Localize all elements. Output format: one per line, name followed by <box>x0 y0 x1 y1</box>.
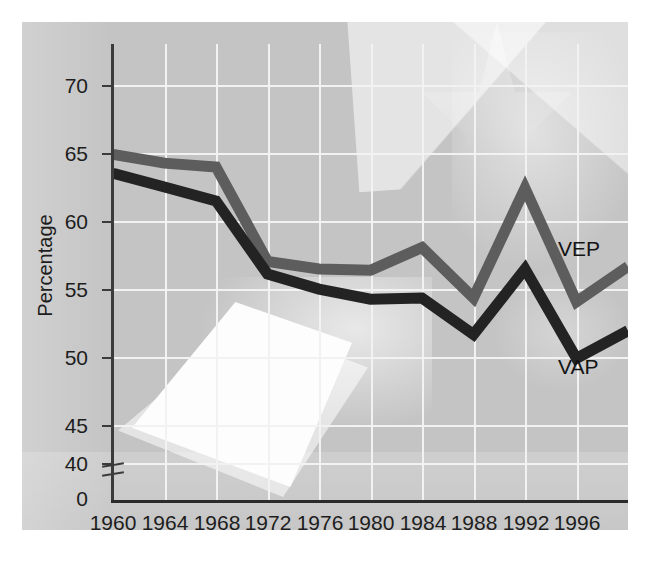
y-tick-60 <box>102 221 113 223</box>
chart-panel: 70 65 60 55 50 45 40 0 1960 1964 1968 19… <box>22 22 628 530</box>
series-label-vep: VEP <box>558 237 600 261</box>
y-tick-label-40: 40 <box>28 453 88 474</box>
y-tick-label-0: 0 <box>28 488 88 509</box>
x-tick-label-1980: 1980 <box>341 511 401 530</box>
y-axis-line <box>111 44 114 502</box>
chart-figure: 70 65 60 55 50 45 40 0 1960 1964 1968 19… <box>0 0 650 573</box>
y-tick-70 <box>102 85 113 87</box>
x-axis-line <box>111 500 628 503</box>
x-tick-label-1960: 1960 <box>83 511 143 530</box>
y-axis-break-icon <box>102 462 124 478</box>
y-tick-label-45: 45 <box>28 415 88 436</box>
x-tick-label-1996: 1996 <box>547 511 607 530</box>
x-tick-label-1972: 1972 <box>238 511 298 530</box>
y-tick-label-65: 65 <box>28 143 88 164</box>
y-tick-50 <box>102 357 113 359</box>
y-tick-65 <box>102 153 113 155</box>
series-label-vap: VAP <box>558 355 598 379</box>
y-axis-title: Percentage <box>34 181 57 351</box>
y-tick-label-70: 70 <box>28 75 88 96</box>
plot-area: 70 65 60 55 50 45 40 0 1960 1964 1968 19… <box>22 22 628 530</box>
line-vep <box>113 154 628 301</box>
y-tick-45 <box>102 425 113 427</box>
x-tick-label-1964: 1964 <box>135 511 195 530</box>
y-tick-55 <box>102 289 113 291</box>
x-tick-label-1988: 1988 <box>444 511 504 530</box>
